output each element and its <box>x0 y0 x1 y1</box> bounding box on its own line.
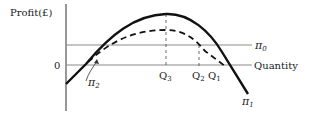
pi1-label: π1 <box>241 95 254 109</box>
q3-label: Q3 <box>159 70 172 83</box>
pi0-label: π0 <box>254 39 267 53</box>
profit-diagram: Profit(£) 0 Quantity π0 π1 π2 Q3 Q2 Q1 <box>0 0 312 115</box>
q1-label: Q1 <box>208 70 221 83</box>
pi2-label: π2 <box>87 76 100 90</box>
pi2-arrowhead <box>94 59 99 64</box>
profit-curve-pi2 <box>88 30 225 66</box>
origin-label: 0 <box>54 60 60 71</box>
x-axis-label: Quantity <box>254 60 298 71</box>
y-axis-label: Profit(£) <box>10 7 52 18</box>
q2-label: Q2 <box>192 70 205 83</box>
